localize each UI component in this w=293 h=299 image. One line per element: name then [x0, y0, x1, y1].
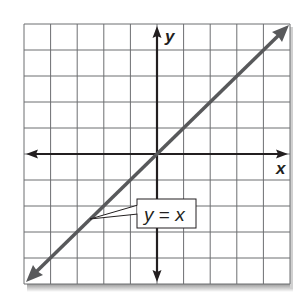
equation-equals: =: [154, 204, 176, 225]
x-axis-label: x: [275, 159, 287, 178]
y-axis-label: y: [164, 27, 176, 46]
equation-x: x: [174, 204, 186, 225]
coordinate-plane: y x y = x: [0, 0, 293, 299]
equation-label: y = x: [142, 204, 186, 225]
grid-shadow: [27, 284, 293, 292]
